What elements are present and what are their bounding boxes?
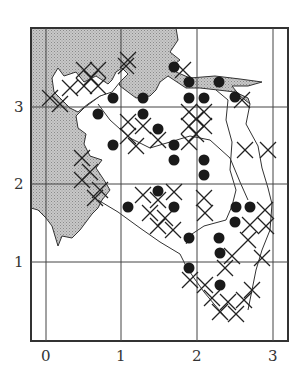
cross-marker	[196, 104, 212, 120]
distribution-map	[0, 0, 303, 379]
cross-marker	[212, 304, 228, 320]
x-tick-0: 0	[41, 347, 51, 365]
cross-marker	[220, 294, 236, 310]
dot-marker	[108, 93, 119, 104]
cross-marker	[244, 282, 260, 298]
cross-marker	[237, 142, 253, 158]
dot-marker	[199, 155, 210, 166]
dot-marker	[169, 202, 180, 213]
dot-marker	[153, 124, 164, 135]
cross-marker	[157, 210, 173, 226]
y-tick-1: 1	[14, 253, 24, 271]
cross-marker	[166, 184, 182, 200]
cross-marker	[260, 142, 276, 158]
cross-marker	[128, 138, 144, 154]
cross-marker	[254, 250, 270, 266]
dot-marker	[230, 92, 241, 103]
dot-marker	[214, 77, 225, 88]
dot-marker	[184, 77, 195, 88]
y-tick-3: 3	[14, 98, 24, 116]
dot-marker	[215, 248, 226, 259]
dot-marker	[245, 202, 256, 213]
dot-marker	[214, 233, 225, 244]
cross-marker	[242, 217, 258, 233]
cross-marker	[135, 118, 151, 134]
dot-marker	[153, 186, 164, 197]
sea-region	[31, 28, 262, 246]
cross-marker	[135, 187, 151, 203]
dot-marker	[199, 170, 210, 181]
dot-marker	[169, 140, 180, 151]
dot-marker	[138, 109, 149, 120]
cross-marker	[197, 205, 213, 221]
cross-marker	[188, 126, 204, 142]
cross-marker	[196, 190, 212, 206]
x-tick-1: 1	[116, 347, 126, 365]
dot-marker	[215, 280, 226, 291]
dot-marker	[169, 62, 180, 73]
dot-marker	[231, 202, 242, 213]
cross-marker	[228, 306, 244, 322]
dot-marker	[169, 155, 180, 166]
cross-marker	[120, 128, 136, 144]
dot-marker	[123, 202, 134, 213]
x-tick-2: 2	[192, 347, 202, 365]
x-tick-3: 3	[268, 347, 278, 365]
dot-marker	[184, 263, 195, 274]
dot-marker	[230, 217, 241, 228]
cross-marker	[240, 232, 256, 248]
cross-marker	[258, 218, 274, 234]
cross-marker	[257, 202, 273, 218]
dot-marker	[199, 93, 210, 104]
cross-marker	[188, 111, 204, 127]
dot-marker	[184, 93, 195, 104]
dot-marker	[108, 140, 119, 151]
dot-marker	[138, 93, 149, 104]
y-tick-2: 2	[14, 175, 24, 193]
cross-marker	[120, 114, 136, 130]
dot-marker	[93, 109, 104, 120]
dot-marker	[184, 233, 195, 244]
cross-marker	[165, 222, 181, 238]
